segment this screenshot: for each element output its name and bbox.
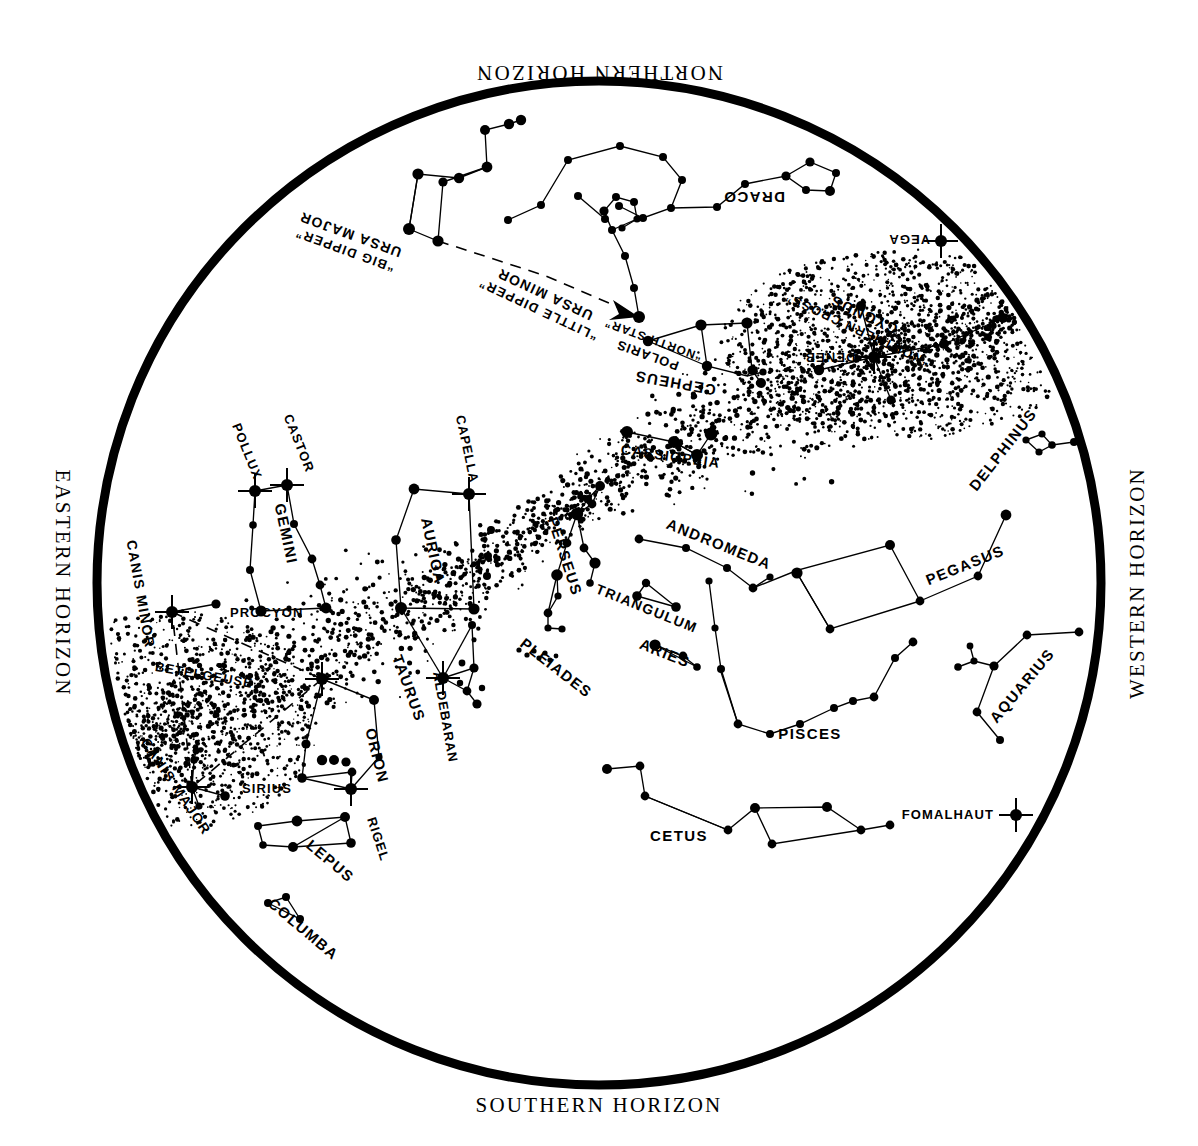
western-horizon-label: WESTERN HORIZON bbox=[1125, 467, 1150, 699]
svg-text:PISCES: PISCES bbox=[778, 725, 841, 742]
svg-text:DENEB: DENEB bbox=[804, 350, 855, 365]
svg-text:CETUS: CETUS bbox=[650, 827, 708, 844]
star-chart: URSA MAJOR“BIG DIPPER”URSA MINOR“LITTLE … bbox=[0, 0, 1198, 1146]
star-label-sirius: SIRIUS bbox=[242, 781, 292, 796]
svg-text:PROCYON: PROCYON bbox=[230, 605, 303, 620]
eastern-horizon-label: EASTERN HORIZON bbox=[50, 469, 75, 696]
svg-text:SIRIUS: SIRIUS bbox=[242, 781, 292, 796]
svg-text:VEGA: VEGA bbox=[888, 232, 929, 247]
svg-text:FOMALHAUT: FOMALHAUT bbox=[902, 807, 994, 822]
star-label-procyon: PROCYON bbox=[230, 605, 303, 620]
constellation-label-cetus: CETUS bbox=[650, 827, 708, 844]
svg-text:DRACO: DRACO bbox=[723, 189, 785, 206]
star-label-fomalhaut: FOMALHAUT bbox=[902, 807, 994, 822]
constellation-label-draco: DRACO bbox=[723, 189, 785, 206]
southern-horizon-label: SOUTHERN HORIZON bbox=[476, 1093, 723, 1118]
sky-map: URSA MAJOR“BIG DIPPER”URSA MINOR“LITTLE … bbox=[0, 0, 1198, 1146]
constellation-label-pisces: PISCES bbox=[778, 725, 841, 742]
bright-star-polaris bbox=[634, 312, 644, 322]
star-label-vega: VEGA bbox=[888, 232, 929, 247]
star-label-deneb: DENEB bbox=[804, 350, 855, 365]
northern-horizon-label: NORTHERN HORIZON bbox=[475, 60, 723, 85]
